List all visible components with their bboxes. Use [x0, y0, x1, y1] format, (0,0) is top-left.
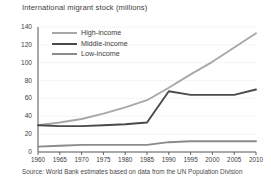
legend-item[interactable]: High-income	[52, 29, 128, 37]
y-tick-label: 60	[8, 94, 32, 101]
legend-line-swatch	[52, 32, 77, 34]
legend-line-swatch	[52, 43, 77, 45]
y-tick-label: 140	[8, 23, 32, 30]
chart-legend: High-incomeMiddle-incomeLow-income	[52, 29, 128, 58]
y-tick-label: 40	[8, 112, 32, 119]
legend-item[interactable]: Middle-income	[52, 40, 128, 48]
legend-line-swatch	[52, 53, 77, 55]
x-tick-label: 2010	[243, 156, 269, 163]
legend-label: Middle-income	[81, 40, 128, 48]
legend-label: High-income	[81, 29, 121, 37]
y-tick-label: 20	[8, 130, 32, 137]
chart-source-note: Source: World Bank estimates based on da…	[22, 168, 242, 175]
y-tick-label: 0	[8, 148, 32, 155]
legend-item[interactable]: Low-income	[52, 50, 128, 58]
legend-label: Low-income	[81, 50, 120, 58]
y-tick-label: 100	[8, 59, 32, 66]
y-tick-label: 120	[8, 41, 32, 48]
y-tick-label: 80	[8, 77, 32, 84]
chart-figure: International migrant stock (millions) 0…	[0, 0, 271, 187]
